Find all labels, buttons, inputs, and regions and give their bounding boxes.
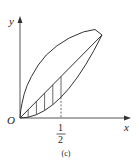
- x-axis-arrow-icon: [124, 116, 131, 121]
- tick-numerator: 1: [58, 122, 63, 133]
- x-axis-label: x: [123, 121, 129, 133]
- diagram-canvas: y x O 1 2 (c): [0, 0, 139, 168]
- y-axis-label: y: [8, 15, 14, 27]
- tick-denominator: 2: [58, 134, 63, 145]
- figure-caption: (c): [62, 149, 71, 158]
- origin-label: O: [7, 114, 15, 126]
- y-axis-arrow-icon: [18, 16, 23, 23]
